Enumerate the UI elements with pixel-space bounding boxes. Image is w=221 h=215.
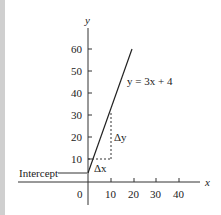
y-tick-50: 50 [71, 65, 83, 77]
delta-y-label: Δy [114, 131, 127, 143]
y-axis-label: y [84, 14, 90, 26]
y-tick-40: 40 [71, 87, 83, 99]
y-ticks: 60 50 40 30 20 10 [71, 43, 92, 165]
intercept-label: Intercept [19, 167, 58, 179]
y-tick-60: 60 [71, 43, 83, 55]
origin-label: 0 [77, 188, 83, 200]
y-tick-10: 10 [71, 153, 83, 165]
delta-x-label: Δx [94, 162, 107, 174]
data-line [88, 49, 132, 173]
line-chart: y x 60 50 40 30 20 10 0 10 20 30 40 y = … [0, 0, 221, 215]
x-tick-30: 30 [150, 188, 162, 200]
y-tick-30: 30 [71, 109, 83, 121]
x-tick-40: 40 [173, 188, 185, 200]
equation-label: y = 3x + 4 [127, 75, 173, 87]
x-tick-20: 20 [128, 188, 140, 200]
y-tick-20: 20 [71, 131, 83, 143]
x-ticks: 0 10 20 30 40 [77, 178, 185, 200]
x-axis-label: x [204, 176, 210, 188]
x-tick-10: 10 [105, 188, 117, 200]
